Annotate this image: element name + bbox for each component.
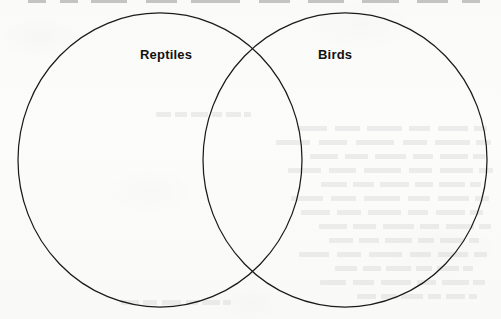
venn-label-reptiles: Reptiles [140, 47, 192, 62]
venn-diagram-figure: Reptiles Birds [0, 0, 501, 319]
venn-label-birds: Birds [318, 47, 352, 62]
venn-diagram-canvas [0, 0, 501, 319]
